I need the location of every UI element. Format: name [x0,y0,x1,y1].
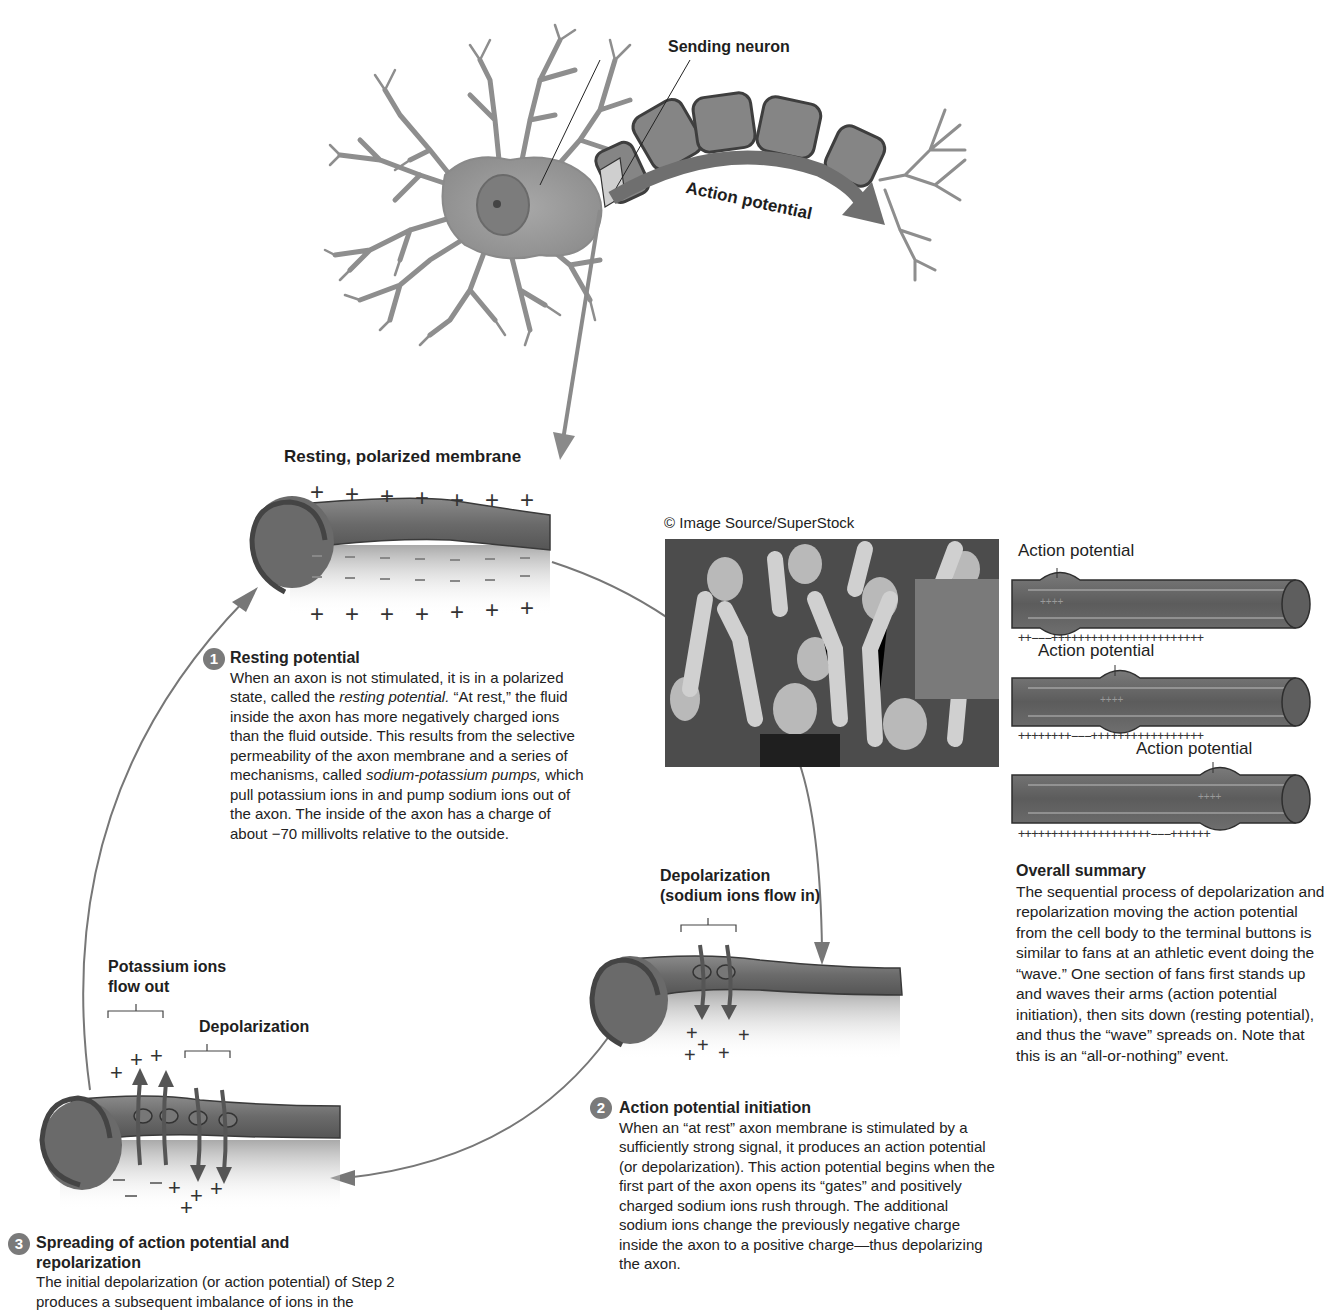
sending-neuron-label: Sending neuron [668,37,790,57]
summary-charge-row-1: ++−−−+++++++++++++++++++++++ [1018,631,1204,645]
svg-text:+: + [380,482,394,509]
step-3-text: Spreading of action potential and repola… [36,1233,416,1311]
svg-text:+: + [738,1024,750,1046]
overall-summary-title: Overall summary [1016,861,1326,882]
overall-summary-text: The sequential process of depolarization… [1016,883,1324,1064]
svg-text:+: + [718,1042,730,1064]
summary-charge-row-2: ++++++++−−−+++++++++++++++++ [1018,729,1204,743]
svg-text:+: + [686,1022,698,1044]
photo-credit: © Image Source/SuperStock [664,514,854,531]
svg-text:+: + [485,486,499,513]
svg-text:+: + [450,598,464,625]
step-1-term-resting-potential: resting potential. [339,688,449,705]
summary-inside-charge-3: ++++ [1198,791,1221,802]
svg-text:+: + [310,478,324,505]
svg-text:+: + [110,1060,123,1085]
summary-axon-3 [1012,762,1310,830]
potassium-flow-out-label: flow out [108,977,169,997]
svg-text:+: + [697,1034,709,1056]
summary-label-1: Action potential [1018,541,1134,561]
svg-text:+: + [345,600,359,627]
step-3-title-line2: repolarization [36,1253,416,1273]
step-2-badge: 2 [590,1097,612,1119]
svg-text:+: + [485,596,499,623]
depolarization-label-step3: Depolarization [199,1017,309,1037]
svg-text:+: + [450,486,464,513]
svg-text:+: + [520,594,534,621]
svg-text:+: + [180,1195,193,1220]
svg-text:+: + [345,480,359,507]
sodium-flow-label: (sodium ions flow in) [660,886,820,906]
step-3-title-line1: Spreading of action potential and [36,1233,416,1253]
svg-text:+: + [168,1175,181,1200]
crowd-wave-photo [665,539,999,767]
step-1-term-pumps: sodium-potassium pumps, [366,766,541,783]
step-1-badge: 1 [203,648,225,670]
summary-inside-charge-2: ++++ [1100,694,1123,705]
svg-text:+: + [150,1043,163,1068]
potassium-ions-label: Potassium ions [108,957,226,977]
step-2-body: When an “at rest” axon membrane is stimu… [619,1119,995,1273]
step-3-body: The initial depolarization (or action po… [36,1273,395,1310]
depolarization-membrane-illustration: + + + + + [592,918,902,1066]
svg-text:+: + [520,486,534,513]
resting-membrane-illustration [250,496,550,615]
step-3-badge: 3 [8,1233,30,1255]
step-2-text: Action potential initiation When an “at … [619,1098,999,1274]
overall-summary: Overall summary The sequential process o… [1016,861,1326,1066]
svg-text:+: + [130,1047,143,1072]
depolarization-label: Depolarization [660,866,770,886]
summary-charge-row-3: ++++++++++++++++++++−−−++++++ [1018,827,1210,841]
sending-neuron-illustration [325,25,965,345]
summary-inside-charge-1: ++++ [1040,596,1063,607]
svg-text:+: + [415,484,429,511]
svg-text:+: + [310,600,324,627]
svg-text:+: + [380,600,394,627]
step-2-title: Action potential initiation [619,1098,999,1118]
svg-text:+: + [415,600,429,627]
svg-text:+: + [210,1176,223,1201]
svg-text:+: + [684,1044,696,1066]
step-1-title: Resting potential [230,648,590,668]
summary-axon-2 [1012,665,1310,733]
resting-membrane-label: Resting, polarized membrane [284,447,521,467]
step-1-text: Resting potential When an axon is not st… [230,648,590,843]
